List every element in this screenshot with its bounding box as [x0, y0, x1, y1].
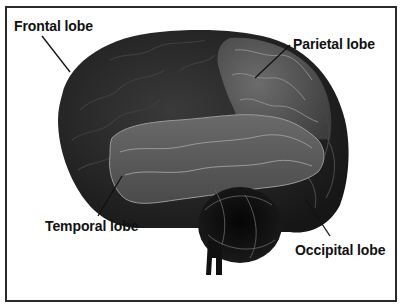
parietal-lobe-label: Parietal lobe	[293, 36, 375, 52]
frontal-lobe-label: Frontal lobe	[14, 18, 93, 34]
cerebellum	[198, 187, 282, 275]
cerebrum	[58, 30, 349, 233]
brainstem	[206, 240, 222, 275]
temporal-lobe-label: Temporal lobe	[45, 218, 138, 234]
frontal-leader-line	[42, 36, 70, 72]
occipital-lobe-label: Occipital lobe	[295, 242, 385, 258]
